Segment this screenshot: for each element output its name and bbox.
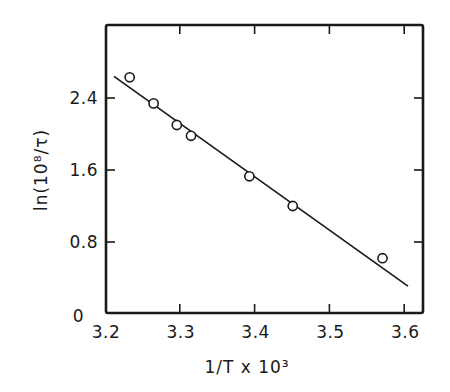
y-tick-label: 2.4 [69, 88, 98, 108]
plot-frame [106, 25, 423, 313]
y-tick-label: 0.8 [69, 232, 98, 252]
axis-ticks [106, 25, 423, 313]
data-point [378, 254, 387, 263]
x-tick-label: 3.6 [391, 322, 420, 342]
arrhenius-plot: 3.23.33.43.53.600.81.62.4 1/T x 10³ ln(1… [0, 0, 450, 392]
x-tick-label: 3.5 [316, 322, 345, 342]
x-tick-label: 3.3 [167, 322, 196, 342]
x-tick-label: 3.4 [241, 322, 270, 342]
tick-labels: 3.23.33.43.53.600.81.62.4 [69, 88, 419, 342]
regression-line [114, 76, 408, 286]
data-point [172, 120, 181, 129]
data-point [125, 73, 134, 82]
data-points [125, 73, 387, 263]
data-point [186, 131, 195, 140]
y-tick-label: 0 [73, 306, 84, 326]
fit-line [114, 76, 408, 286]
data-point [288, 201, 297, 210]
y-tick-label: 1.6 [69, 160, 98, 180]
y-axis-label: ln(10⁸/τ) [31, 129, 51, 211]
plot-border [106, 25, 423, 313]
x-tick-label: 3.2 [92, 322, 121, 342]
x-axis-label: 1/T x 10³ [204, 357, 289, 377]
data-point [149, 99, 158, 108]
data-point [245, 172, 254, 181]
